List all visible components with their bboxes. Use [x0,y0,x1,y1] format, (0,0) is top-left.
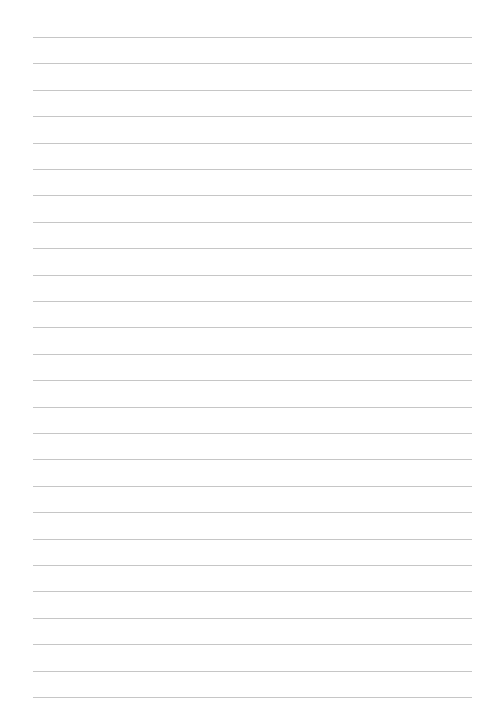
ruled-line [33,354,472,355]
ruled-line [33,671,472,672]
ruled-line [33,407,472,408]
ruled-line [33,275,472,276]
ruled-line [33,90,472,91]
ruled-line [33,565,472,566]
ruled-line [33,459,472,460]
ruled-line [33,380,472,381]
ruled-line [33,195,472,196]
ruled-line [33,327,472,328]
ruled-line [33,143,472,144]
ruled-line [33,116,472,117]
ruled-line [33,37,472,38]
ruled-line [33,512,472,513]
ruled-line [33,63,472,64]
ruled-line [33,697,472,698]
ruled-line [33,169,472,170]
ruled-line [33,618,472,619]
ruled-line [33,539,472,540]
ruled-line [33,301,472,302]
ruled-line [33,486,472,487]
ruled-line [33,591,472,592]
ruled-line [33,433,472,434]
lined-paper-page [0,0,483,722]
ruled-line [33,222,472,223]
ruled-line [33,248,472,249]
ruled-line [33,644,472,645]
